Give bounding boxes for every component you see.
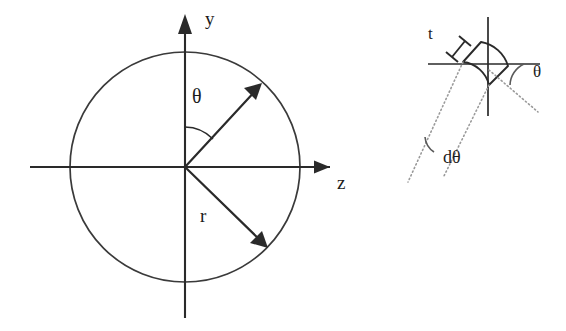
- t-dimension-tick-bottom: [446, 52, 458, 62]
- theta-reference-ray: [489, 70, 538, 112]
- r-vector-line: [185, 167, 262, 242]
- t-dimension-line: [452, 41, 465, 57]
- dtheta-label: dθ: [443, 147, 461, 168]
- theta-angle-arc: [185, 127, 213, 139]
- t-label: t: [428, 24, 433, 44]
- r-label: r: [200, 205, 206, 227]
- detail-theta-arc: [510, 64, 524, 85]
- figure-canvas: [0, 0, 566, 331]
- theta-label-left: θ: [192, 85, 202, 108]
- figure-root: y z θ r t θ dθ: [0, 0, 566, 331]
- z-axis-label: z: [337, 172, 345, 194]
- theta-label-right: θ: [533, 62, 541, 82]
- dtheta-arc: [425, 137, 434, 152]
- left-diagram-group: [30, 14, 330, 318]
- y-axis-arrowhead: [178, 14, 192, 34]
- t-dimension-tick-top: [459, 36, 471, 46]
- y-axis-label: y: [205, 8, 215, 30]
- z-axis-arrowhead: [314, 161, 330, 174]
- theta-vector-arrowhead: [244, 83, 262, 100]
